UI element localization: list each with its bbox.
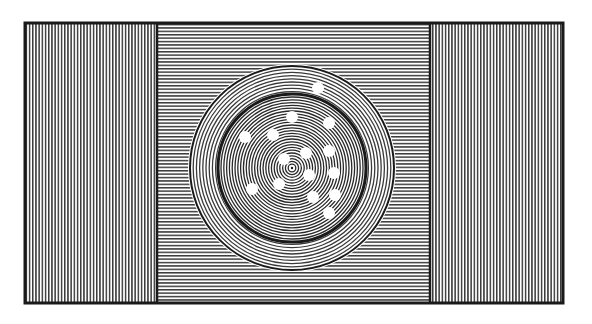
dot bbox=[286, 111, 298, 123]
dot bbox=[246, 183, 258, 195]
right-panel bbox=[430, 23, 563, 303]
dot bbox=[329, 189, 341, 201]
dot bbox=[273, 178, 285, 190]
dot bbox=[312, 82, 324, 94]
dot bbox=[323, 145, 335, 157]
dot bbox=[267, 129, 279, 141]
dot bbox=[307, 191, 319, 203]
dot bbox=[323, 117, 335, 129]
engraved-figure bbox=[0, 0, 592, 324]
center-mark bbox=[291, 167, 293, 169]
dot bbox=[303, 169, 315, 181]
dot bbox=[300, 147, 312, 159]
dot bbox=[239, 131, 251, 143]
dot bbox=[328, 167, 340, 179]
dot bbox=[278, 153, 290, 165]
dot bbox=[323, 207, 335, 219]
left-panel bbox=[25, 23, 157, 303]
circular-dish bbox=[188, 64, 396, 272]
